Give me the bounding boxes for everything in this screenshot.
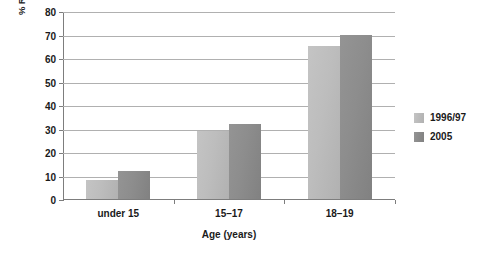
x-tick-mark [174,200,175,204]
y-tick-mark [59,12,63,13]
y-axis-title-container: % Reporting First Sexual Intercourse [4,2,38,207]
y-tick-label: 30 [45,124,56,135]
legend-label: 2005 [430,131,452,142]
plot-area: 01020304050607080 [63,12,395,200]
y-tick-label: 50 [45,77,56,88]
bar-under-15-2005 [118,171,150,199]
x-tick-mark [284,200,285,204]
x-category-label: 18–19 [326,208,354,219]
y-tick-mark [59,83,63,84]
y-tick-label: 0 [50,195,56,206]
y-tick-mark [59,106,63,107]
bar-15-17-1996-97 [197,131,229,199]
bar-15-17-2005 [229,124,261,199]
x-tick-mark [395,200,396,204]
y-axis-title: % Reporting First Sexual Intercourse [4,0,38,36]
bar-chart-figure: % Reporting First Sexual Intercourse 010… [0,0,487,255]
legend-item-1996-97[interactable]: 1996/97 [414,108,466,127]
x-axis-title: Age (years) [63,229,395,240]
y-tick-mark [59,200,63,201]
y-tick-mark [59,36,63,37]
bar-under-15-1996-97 [86,180,118,199]
chart-legend: 1996/972005 [414,108,466,146]
y-tick-mark [59,177,63,178]
x-category-label: 15–17 [215,208,243,219]
y-tick-mark [59,153,63,154]
bar-18-19-2005 [340,35,372,200]
y-tick-label: 80 [45,7,56,18]
y-tick-mark [59,59,63,60]
y-tick-label: 60 [45,54,56,65]
x-category-label: under 15 [97,208,139,219]
y-tick-label: 70 [45,30,56,41]
y-tick-label: 10 [45,171,56,182]
gridline [63,200,395,201]
y-tick-label: 20 [45,148,56,159]
y-tick-label: 40 [45,101,56,112]
legend-swatch-icon [414,132,424,142]
gridline [63,12,395,13]
legend-label: 1996/97 [430,112,466,123]
bar-18-19-1996-97 [308,46,340,199]
y-tick-mark [59,130,63,131]
legend-item-2005[interactable]: 2005 [414,127,466,146]
legend-swatch-icon [414,113,424,123]
